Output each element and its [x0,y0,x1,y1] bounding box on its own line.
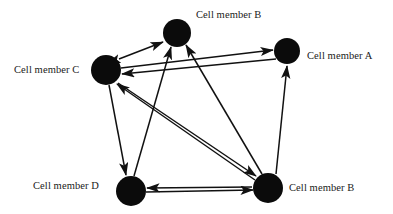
node-cell-member-a[interactable] [274,38,300,64]
node-cell-member-c[interactable] [91,55,121,85]
edge-c-to-d [109,85,126,175]
edge-c-to-a [121,50,273,68]
label-cell-member-d: Cell member D [33,180,99,191]
edge-bbottom-to-a [276,66,287,174]
edge-bbottom-to-d [147,187,252,188]
edge-c-to-btop [119,42,163,59]
label-cell-member-b-bottom: Cell member B [289,182,354,193]
label-cell-member-c: Cell member C [14,64,79,75]
node-cell-member-b-bottom[interactable] [253,173,283,203]
label-cell-member-a: Cell member A [307,50,372,61]
node-cell-member-d[interactable] [116,176,146,206]
node-cell-member-b-top[interactable] [163,19,191,47]
label-cell-member-b-top: Cell member B [196,9,261,20]
diagram-canvas: Cell member B Cell member A Cell member … [0,0,393,214]
edge-d-to-bbottom [146,190,253,192]
